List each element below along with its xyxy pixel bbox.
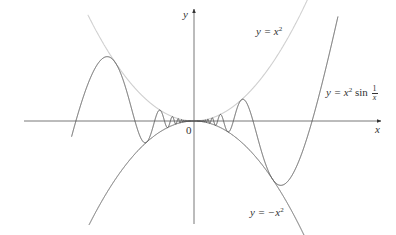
label-y-equals-x-squared: y = x2 (256, 26, 282, 37)
curve-x-squared-sin-inv-x (72, 17, 338, 186)
label-y-equals-x-squared-sin: y = x2 sin 1x (326, 85, 378, 102)
plot-area (0, 0, 396, 235)
curve-x-squared (88, 0, 317, 121)
fraction-one-over-x: 1x (372, 85, 378, 102)
figure: y x 0 y = x2 y = x2 sin 1x y = −x2 (0, 0, 396, 235)
origin-label: 0 (186, 125, 192, 136)
label-y-equals-neg-x-squared: y = −x2 (250, 207, 284, 218)
x-axis-label: x (375, 124, 380, 135)
y-axis-label: y (183, 9, 188, 20)
